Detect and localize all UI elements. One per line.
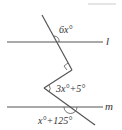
angle-label-middle: 3x°+5°	[55, 83, 85, 94]
angle-label-top: 6x°	[59, 24, 72, 35]
line-l-label: l	[106, 35, 109, 47]
right-angle-marker	[64, 63, 68, 70]
line-m-label: m	[105, 100, 113, 112]
angle-arc-middle	[49, 85, 50, 92]
geometry-diagram: l m 6x° 3x°+5° x°+125°	[0, 0, 122, 130]
angle-label-bottom: x°+125°	[37, 115, 72, 126]
